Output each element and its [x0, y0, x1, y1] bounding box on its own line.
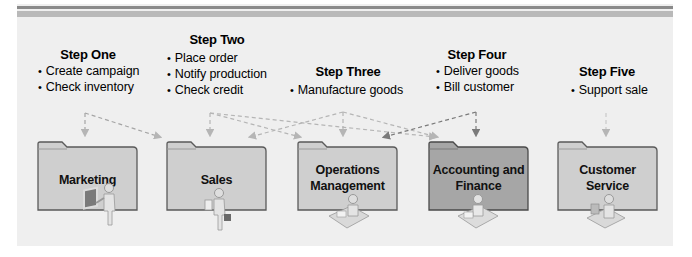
- desk-worker-icon: [456, 194, 500, 230]
- department-label: Service: [557, 178, 658, 194]
- desk-worker-icon: [327, 194, 371, 230]
- arrow-step-two: [210, 113, 435, 137]
- department-folder-marketing: Marketing: [37, 141, 138, 207]
- arrow-step-one: [85, 113, 160, 137]
- department-label: Management: [297, 178, 398, 194]
- computer-user-icon: [585, 194, 629, 230]
- department-folder-accounting-and-finance: Accounting and Finance: [428, 141, 529, 207]
- department-label: Operations: [297, 162, 398, 178]
- department-folder-sales: Sales: [166, 141, 267, 207]
- department-folder-customer-service: Customer Service: [557, 141, 658, 207]
- presenter-icon: [82, 183, 122, 228]
- arrow-step-four: [384, 112, 476, 137]
- salesperson-icon: [204, 188, 234, 233]
- arrow-step-three: [250, 112, 437, 137]
- department-label: Finance: [428, 178, 529, 194]
- department-label: Customer: [557, 162, 658, 178]
- department-label: Accounting and: [428, 162, 529, 178]
- department-label: Sales: [166, 172, 267, 188]
- department-folder-operations-management: Operations Management: [297, 141, 398, 207]
